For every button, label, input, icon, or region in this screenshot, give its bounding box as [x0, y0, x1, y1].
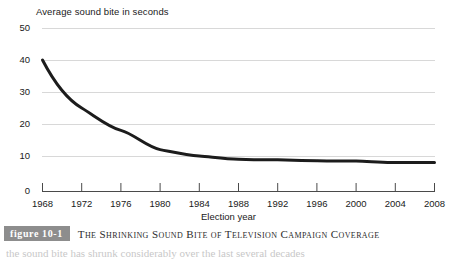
y-tick-label-20: 20	[6, 119, 30, 129]
x-axis-ticks	[82, 183, 396, 192]
y-tick-label-0: 0	[6, 186, 30, 196]
x-tick-label-1968: 1968	[23, 198, 63, 209]
chart-plot-area: Average sound bite in seconds	[0, 0, 457, 220]
x-tick-label-2004: 2004	[375, 198, 415, 209]
x-tick-label-1984: 1984	[179, 198, 219, 209]
y-tick-label-30: 30	[6, 87, 30, 97]
x-axis-title: Election year	[0, 211, 457, 222]
x-tick-label-2000: 2000	[336, 198, 376, 209]
body-text-sliver: the sound bite has shrunk considerably o…	[6, 247, 451, 259]
x-tick-label-1992: 1992	[258, 198, 298, 209]
y-tick-label-50: 50	[6, 23, 30, 33]
x-tick-label-1988: 1988	[219, 198, 259, 209]
chart-svg	[0, 0, 457, 220]
x-tick-label-1980: 1980	[140, 198, 180, 209]
figure-caption: figure 10-1 The Shrinking Sound Bite of …	[4, 226, 380, 241]
x-tick-label-1972: 1972	[62, 198, 102, 209]
y-tick-label-40: 40	[6, 55, 30, 65]
data-line-series	[43, 60, 435, 162]
x-tick-label-1996: 1996	[297, 198, 337, 209]
y-tick-label-10: 10	[6, 151, 30, 161]
figure-number-badge: figure 10-1	[4, 226, 70, 241]
gridlines	[42, 29, 435, 157]
x-tick-label-1976: 1976	[101, 198, 141, 209]
figure-caption-title: The Shrinking Sound Bite of Television C…	[78, 228, 380, 240]
x-tick-label-2008: 2008	[415, 198, 455, 209]
